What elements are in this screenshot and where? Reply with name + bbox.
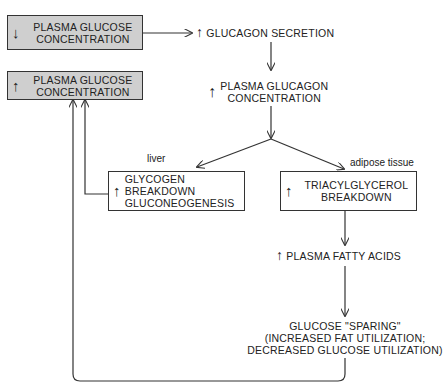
- up-arrow-icon: ↑: [276, 247, 283, 263]
- plasma-glucagon-node: ↑ PLASMA GLUCAGONCONCENTRATION: [208, 80, 328, 104]
- liver-process-box: ↑ GLYCOGEN BREAKDOWNGLUCONEOGENESIS: [108, 171, 245, 211]
- up-arrow-icon: ↑: [113, 184, 121, 198]
- down-arrow-icon: ↓: [12, 26, 20, 40]
- adipose-tissue-label: adipose tissue: [350, 157, 414, 168]
- low-plasma-glucose-box: ↓ PLASMA GLUCOSECONCENTRATION: [7, 15, 143, 50]
- up-arrow-icon: ↑: [285, 184, 293, 198]
- high-plasma-glucose-box: ↑ PLASMA GLUCOSECONCENTRATION: [7, 71, 143, 100]
- plasma-fatty-acids-node: ↑ PLASMA FATTY ACIDS: [276, 249, 401, 262]
- up-arrow-icon: ↑: [12, 79, 20, 93]
- glucagon-secretion-node: ↑ GLUCAGON SECRETION: [196, 26, 334, 39]
- up-arrow-icon: ↑: [208, 86, 216, 98]
- up-arrow-icon: ↑: [196, 24, 203, 40]
- glucose-sparing-node: GLUCOSE "SPARING" (INCREASED FAT UTILIZA…: [245, 320, 445, 356]
- liver-label: liver: [147, 153, 165, 164]
- adipose-process-box: ↑ TRIACYLGLYCEROLBREAKDOWN: [280, 171, 417, 211]
